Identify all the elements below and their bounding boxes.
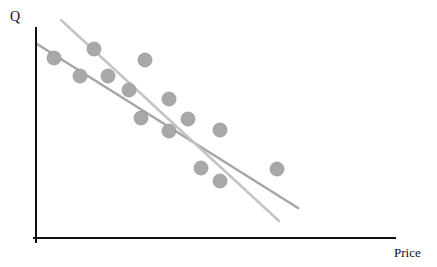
data-point <box>138 53 152 67</box>
data-point <box>270 162 284 176</box>
data-point <box>213 123 227 137</box>
data-point <box>134 111 148 125</box>
data-point <box>162 124 176 138</box>
data-point <box>213 174 227 188</box>
fit-lines <box>37 20 298 221</box>
data-point <box>181 112 195 126</box>
data-point <box>162 92 176 106</box>
scatter-plot <box>0 0 437 267</box>
data-point <box>47 51 61 65</box>
x-axis-label: Price <box>394 245 421 261</box>
y-axis-label: Q <box>10 9 20 25</box>
data-point <box>73 69 87 83</box>
data-point <box>87 42 101 56</box>
data-point <box>122 83 136 97</box>
data-point <box>101 69 115 83</box>
data-point <box>194 161 208 175</box>
